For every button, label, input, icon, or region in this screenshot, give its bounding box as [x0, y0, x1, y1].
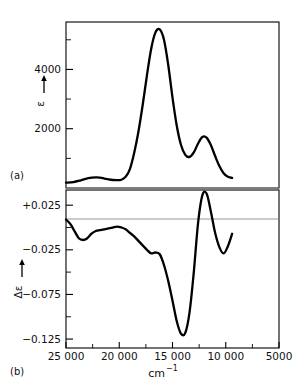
spectra-figure: 20004000 ε (a) +0.025−0.025−0.075−0.125 …	[0, 0, 304, 388]
y-tick-label: 4000	[34, 63, 61, 75]
x-axis-title: cm	[148, 367, 165, 380]
x-tick-label: 5000	[266, 350, 293, 362]
x-tick-label: 10 000	[207, 350, 244, 362]
y-tick-label: +0.025	[22, 199, 61, 211]
y-tick-label: −0.075	[22, 288, 61, 300]
panel-a-axis-title: ε	[34, 101, 46, 107]
y-tick-label: −0.125	[22, 333, 61, 345]
x-tick-label: 25 000	[48, 350, 85, 362]
panel-b-axis-title: Δε	[12, 286, 24, 299]
panel-b-label: (b)	[10, 366, 24, 377]
x-tick-label: 20 000	[101, 350, 138, 362]
figure-container: 20004000 ε (a) +0.025−0.025−0.075−0.125 …	[0, 0, 304, 388]
figure-background	[0, 0, 304, 388]
x-tick-label: 15 000	[154, 350, 191, 362]
y-tick-label: 2000	[34, 122, 61, 134]
panel-a-label: (a)	[10, 170, 24, 181]
x-axis-title-superscript: −1	[166, 364, 178, 373]
y-tick-label: −0.025	[22, 243, 61, 255]
